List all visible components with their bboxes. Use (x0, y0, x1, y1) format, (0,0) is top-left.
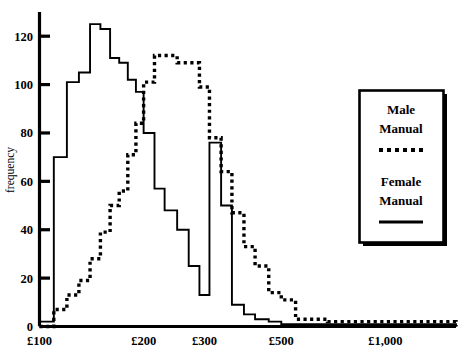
chart-canvas: 020406080100120 £100£200£300£500£1,000 f… (0, 0, 468, 357)
legend-male-label-line1: Male (387, 102, 415, 117)
y-axis-title: frequency (4, 147, 17, 193)
x-tick-label: £1,000 (368, 334, 402, 348)
x-tick-label: £200 (131, 334, 156, 348)
histogram-chart: 020406080100120 £100£200£300£500£1,000 f… (0, 0, 468, 357)
legend-female-label-line1: Female (381, 174, 422, 189)
legend-female-label-line2: Manual (379, 193, 423, 208)
y-tick-label: 120 (14, 30, 33, 44)
y-tick-label: 0 (27, 320, 33, 334)
y-tick-label: 40 (21, 223, 34, 237)
x-tick-label: £300 (192, 334, 217, 348)
y-tick-label: 60 (21, 175, 34, 189)
y-tick-label: 20 (21, 272, 34, 286)
y-tick-label: 80 (21, 126, 34, 140)
y-tick-label: 100 (14, 78, 33, 92)
x-tick-label: £100 (27, 334, 52, 348)
legend: Male Manual Female Manual (360, 91, 448, 247)
x-tick-label: £500 (269, 334, 294, 348)
legend-male-label-line2: Manual (379, 121, 423, 136)
